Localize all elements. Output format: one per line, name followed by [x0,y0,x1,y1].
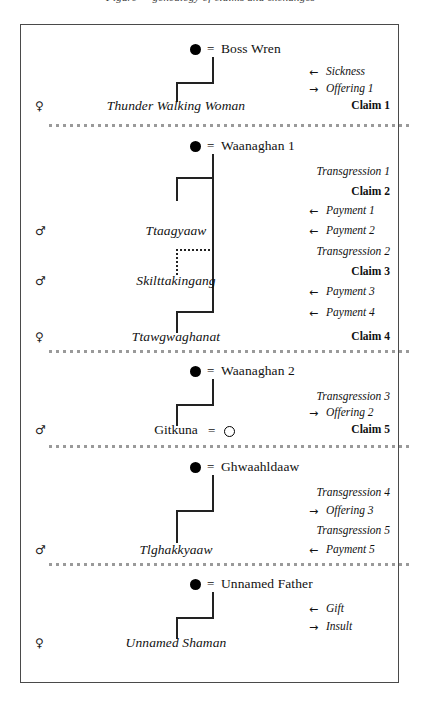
equals-sign: = [207,41,214,57]
descendant-name-tlghakkyaaw: Tlghakkyaaw [139,542,212,558]
event-arrow-in-payment-5: ← [309,544,318,557]
event-label-offering-2: Offering 2 [326,406,374,418]
descent-line-vertical-lower [176,510,178,543]
event-label-claim-1: Claim 1 [351,99,390,111]
event-label-payment-4: Payment 4 [326,306,375,318]
event-label-offering-1: Offering 1 [326,82,374,94]
event-arrow-out-offering-3: → [309,505,318,518]
event-arrow-in-payment-2: ← [309,225,318,238]
event-label-transgression-2: Transgression 2 [317,245,390,257]
event-label-gift: Gift [326,602,344,614]
sex-symbol-female-unnamed-shaman: ♀ [35,636,44,650]
equals-sign: = [207,459,214,475]
event-arrow-in-payment-1: ← [309,205,318,218]
event-label-sickness: Sickness [326,65,365,77]
child-name-ttawgwaghanat: Ttawgwaghanat [132,329,220,345]
sex-symbol-male-tlghakkyaaw: ♂ [35,543,46,557]
sex-symbol-male-skilttakingang: ♂ [35,274,46,288]
event-arrow-in-payment-4: ← [309,307,318,320]
child-name-ttaagyaaw: Ttaagyaaw [146,223,207,239]
equals-sign: = [207,576,214,592]
descent-line-vertical-upper [212,592,214,618]
descent-line-vertical-upper [212,379,214,405]
descendant-name-unnamed-shaman: Unnamed Shaman [126,635,227,651]
event-label-transgression-4: Transgression 4 [317,486,390,498]
event-arrow-in-gift: ← [309,603,318,616]
event-label-transgression-1: Transgression 1 [317,165,390,177]
event-arrow-out-insult: → [309,621,318,634]
marker-filled-circle-icon [190,579,201,590]
child-link-horizontal-ttaagyaaw [176,177,214,179]
section-separator-1 [49,124,412,127]
child-name-skilttakingang: Skilttakingang [136,273,215,289]
event-label-claim-3: Claim 3 [351,265,390,277]
event-label-payment-2: Payment 2 [326,224,375,236]
child-link-horizontal-ttawgwaghanat [176,311,214,313]
event-arrow-in-sickness: ← [309,66,318,79]
child-link-vertical-dotted-skilttakingang [176,249,178,275]
marker-filled-circle-icon [190,44,201,55]
descent-line-horizontal [176,404,214,406]
event-label-payment-1: Payment 1 [326,204,375,216]
equals-sign: = [207,138,214,154]
descent-line-horizontal [176,617,214,619]
diagram-frame: = Boss Wren ♀ Thunder Walking Woman ← Si… [20,24,399,683]
descent-line-horizontal [176,510,214,512]
event-arrow-out-offering-1: → [309,83,318,96]
event-label-offering-3: Offering 3 [326,504,374,516]
sex-symbol-male-ttaagyaaw: ♂ [35,224,46,238]
event-label-claim-2: Claim 2 [351,185,390,197]
event-label-payment-3: Payment 3 [326,285,375,297]
anchor-name-waanaghan-2: Waanaghan 2 [221,363,295,379]
event-label-transgression-3: Transgression 3 [317,390,390,402]
section-separator-3 [49,445,412,448]
equals-sign-spouse: = [208,423,215,439]
section-separator-4 [49,563,412,566]
event-label-claim-4: Claim 4 [351,330,390,342]
child-link-horizontal-dotted-skilttakingang [176,249,214,251]
marker-filled-circle-icon [190,366,201,377]
descent-line-horizontal [176,82,214,84]
event-arrow-out-offering-2: → [309,407,318,420]
event-label-payment-5: Payment 5 [326,543,375,555]
marker-filled-circle-icon [190,141,201,152]
child-link-vertical-ttaagyaaw [176,177,178,201]
event-label-insult: Insult [326,620,352,632]
section-separator-2 [49,350,412,353]
anchor-name-waanaghan-1: Waanaghan 1 [221,138,295,154]
marker-open-circle-icon [224,426,235,437]
descent-line-vertical-upper [212,475,214,511]
sex-symbol-female-ttawgwaghanat: ♀ [35,330,44,344]
event-arrow-in-payment-3: ← [309,286,318,299]
event-label-transgression-5: Transgression 5 [317,524,390,536]
page-title: Figure — genealogy of claims and exchang… [0,0,421,3]
equals-sign: = [207,363,214,379]
event-label-claim-5: Claim 5 [351,423,390,435]
anchor-name-unnamed-father: Unnamed Father [221,576,313,592]
marker-filled-circle-icon [190,462,201,473]
anchor-name-boss-wren: Boss Wren [221,41,281,57]
sex-symbol-female: ♀ [35,99,44,113]
anchor-name-ghwaahldaaw: Ghwaahldaaw [221,459,299,475]
descent-line-vertical-upper [212,57,214,83]
sex-symbol-male-gitkuna: ♂ [35,423,46,437]
descendant-name-gitkuna: Gitkuna [154,422,198,438]
descendant-name-thunder-walking-woman: Thunder Walking Woman [107,98,245,114]
